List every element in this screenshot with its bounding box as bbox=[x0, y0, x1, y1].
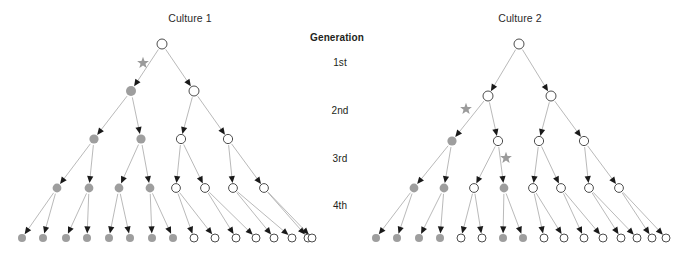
tree-1-edge-3-6-0-line bbox=[237, 193, 268, 231]
tree-2-edge-3-4-0-head bbox=[538, 226, 544, 234]
tree-1-node-5-14-open bbox=[288, 234, 296, 242]
tree-2-node-5-3-filled bbox=[415, 234, 423, 242]
tree-1-edge-3-3-0-head bbox=[148, 226, 154, 233]
tree-2-node-1-1-open bbox=[514, 39, 524, 49]
tree-1-edge-3-1-0-line bbox=[70, 193, 86, 228]
tree-2-edge-1-0-0-line bbox=[459, 101, 484, 133]
tree-2-node-4-2-filled bbox=[440, 184, 449, 193]
tree-2-edge-3-6-0-head bbox=[612, 227, 618, 235]
tree-2-edge-3-3-1-head bbox=[516, 226, 522, 234]
tree-1-edge-3-3-0-line bbox=[150, 194, 151, 228]
tree-2-edge-0-0-1-line bbox=[522, 50, 545, 87]
tree-1-edge-2-3-0-head bbox=[229, 176, 235, 183]
tree-1-node-5-11-open bbox=[232, 234, 240, 242]
tree-2-edge-3-4-1-head bbox=[555, 227, 561, 235]
tree-2-edge-3-1-0-line bbox=[424, 193, 442, 229]
tree-1-edge-2-0-0-line bbox=[63, 144, 90, 180]
tree-1-edge-1-1-1-head bbox=[218, 127, 225, 135]
tree-1-edge-3-2-0-line bbox=[111, 194, 118, 228]
tree-1-edge-2-0-1-line bbox=[90, 145, 93, 177]
tree-2-edge-2-2-0-head bbox=[531, 176, 537, 183]
tree-1-edge-0-0-0-head bbox=[134, 79, 140, 87]
tree-2-node-4-3-open bbox=[470, 184, 479, 193]
tree-1-node-5-13-open bbox=[270, 234, 278, 242]
tree-2-edge-2-0-0-head bbox=[417, 177, 424, 184]
tree-2-edge-1-1-1-line bbox=[555, 101, 578, 132]
tree-1-edge-3-6-1-head bbox=[281, 228, 288, 235]
tree-1-edge-3-5-0-line bbox=[208, 193, 231, 229]
tree-1-edge-2-2-1-line bbox=[184, 144, 201, 178]
tree-1-node-3-4-open bbox=[223, 134, 232, 143]
tree-2-edge-2-3-1-head bbox=[609, 177, 616, 184]
tree-2-edge-1-0-1-head bbox=[492, 128, 498, 136]
tree-2-edge-2-0-0-line bbox=[421, 146, 449, 180]
tree-1-edge-3-6-0-head bbox=[264, 227, 271, 234]
tree-1-edge-2-3-1-line bbox=[232, 144, 258, 180]
tree-2-node-5-15-open bbox=[648, 234, 656, 242]
tree-1-node-4-8-open bbox=[260, 184, 269, 193]
tree-1-edge-3-0-1-line bbox=[46, 194, 56, 229]
tree-2-edge-2-3-0-line bbox=[585, 147, 588, 177]
tree-2-node-5-14-open bbox=[633, 234, 641, 242]
tree-1-node-5-1-filled bbox=[18, 234, 26, 242]
tree-1-edge-1-0-1-line bbox=[132, 97, 138, 128]
tree-1-edge-1-1-0-line bbox=[184, 97, 193, 128]
tree-1-node-5-16-open bbox=[308, 234, 316, 242]
tree-1-node-5-10-open bbox=[211, 234, 219, 242]
tree-1-edge-3-1-1-line bbox=[87, 194, 88, 228]
tree-1-edge-2-1-0-line bbox=[123, 145, 138, 179]
tree-2-edge-3-7-0-line bbox=[622, 193, 646, 230]
tree-1-edge-3-5-0-head bbox=[227, 227, 233, 235]
tree-2-edge-2-2-0-line bbox=[534, 147, 538, 178]
tree-2-edge-2-3-1-line bbox=[588, 146, 613, 180]
tree-2-node-5-16-open bbox=[662, 234, 670, 242]
tree-2-node-5-8-filled bbox=[519, 234, 527, 242]
tree-2-edge-3-1-1-head bbox=[438, 226, 444, 233]
tree-2-edge-3-6-0-line bbox=[592, 193, 615, 230]
tree-1-edge-3-3-1-line bbox=[152, 193, 168, 228]
tree-2-edge-3-5-1-line bbox=[565, 193, 597, 231]
tree-2-edge-3-0-0-head bbox=[379, 227, 386, 234]
tree-1-edge-1-0-1-head bbox=[135, 126, 141, 133]
tree-1-edge-3-7-0-line bbox=[268, 192, 301, 230]
tree-1-edge-2-3-0-line bbox=[229, 145, 232, 177]
tree-1-edge-0-0-1-line bbox=[166, 49, 188, 81]
tree-2-edge-1-1-0-head bbox=[539, 128, 545, 136]
tree-1-edge-0-0-1-head bbox=[184, 79, 191, 87]
tree-1-node-5-9-open bbox=[190, 234, 198, 242]
tree-2-edge-3-3-1-line bbox=[506, 194, 519, 229]
tree-1-edge-3-7-1-line bbox=[268, 192, 305, 230]
tree-2-node-4-8-open bbox=[615, 184, 624, 193]
tree-2-edge-1-1-0-line bbox=[542, 102, 550, 130]
tree-1-node-1-1-open bbox=[157, 39, 167, 49]
tree-2-node-5-4-filled bbox=[436, 234, 444, 242]
tree-1-edge-2-1-1-head bbox=[145, 176, 151, 183]
tree-2-edge-3-2-0-line bbox=[464, 194, 473, 229]
tree-1-edge-2-1-1-line bbox=[142, 145, 148, 178]
tree-2-edge-3-7-1-line bbox=[623, 192, 659, 230]
tree-2-edge-2-1-0-line bbox=[479, 146, 495, 178]
tree-2-node-5-1-filled bbox=[372, 234, 380, 242]
tree-2-edge-1-0-1-line bbox=[489, 102, 495, 130]
tree-1-node-5-12-open bbox=[252, 234, 260, 242]
mutation-star-group bbox=[137, 57, 512, 163]
tree-1-edge-3-0-0-head bbox=[25, 227, 32, 235]
tree-2-edge-3-2-1-head bbox=[477, 226, 483, 233]
tree-2-mutation-star-2 bbox=[500, 152, 512, 163]
tree-2-edge-3-0-1-head bbox=[398, 226, 404, 234]
tree-2-edge-1-1-1-head bbox=[574, 129, 581, 136]
tree-2-edge-3-2-0-head bbox=[461, 226, 467, 234]
tree-2-edge-2-1-1-head bbox=[499, 176, 505, 183]
tree-1-edge-3-4-1-head bbox=[205, 227, 212, 234]
tree-1-edge-3-0-1-head bbox=[43, 226, 49, 234]
tree-1-edge-1-1-1-line bbox=[198, 96, 222, 130]
tree-2-node-3-1-filled bbox=[447, 136, 456, 145]
tree-2-node-5-12-open bbox=[599, 234, 607, 242]
tree-2-edge-3-6-1-line bbox=[593, 192, 630, 230]
tree-2-node-4-1-filled bbox=[410, 184, 419, 193]
tree-2-edge-3-3-0-line bbox=[503, 194, 504, 228]
tree-2-edge-2-0-1-head bbox=[443, 176, 449, 183]
tree-2-edge-3-3-0-head bbox=[500, 226, 506, 233]
tree-1-edge-3-1-1-head bbox=[84, 226, 90, 233]
tree-2-node-5-6-open bbox=[478, 234, 486, 242]
